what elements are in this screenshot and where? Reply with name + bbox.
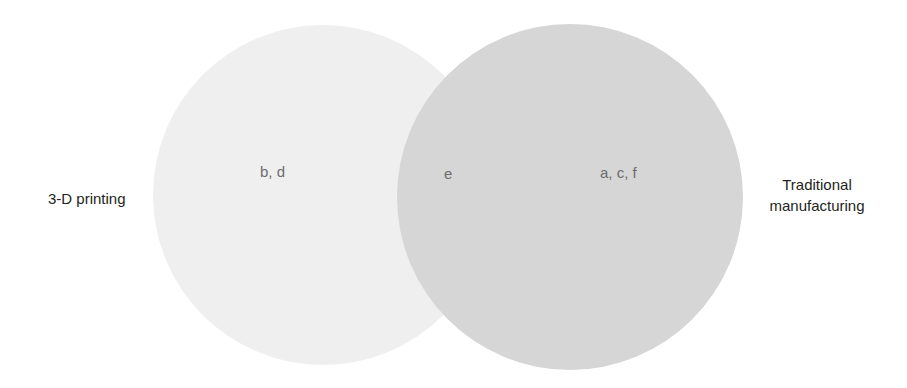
region-intersection-label: e xyxy=(444,165,452,183)
set-circle-traditional-manufacturing xyxy=(397,24,743,370)
set-label-3d-printing: 3-D printing xyxy=(48,188,126,209)
set-label-traditional-manufacturing: Traditional manufacturing xyxy=(752,174,882,216)
region-left-only-label: b, d xyxy=(260,163,285,181)
region-right-only-label: a, c, f xyxy=(600,164,637,182)
set-label-line-1: Traditional xyxy=(752,174,882,195)
set-label-line-2: manufacturing xyxy=(752,195,882,216)
